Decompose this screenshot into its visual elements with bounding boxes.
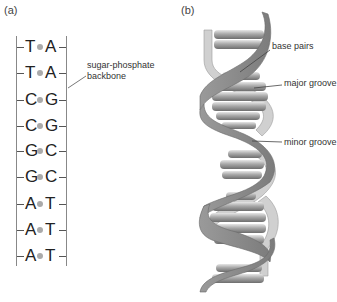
base-pairs-label: base pairs xyxy=(272,41,314,52)
major-groove-label: major groove xyxy=(284,78,337,89)
minor-groove-label: minor groove xyxy=(284,137,337,148)
